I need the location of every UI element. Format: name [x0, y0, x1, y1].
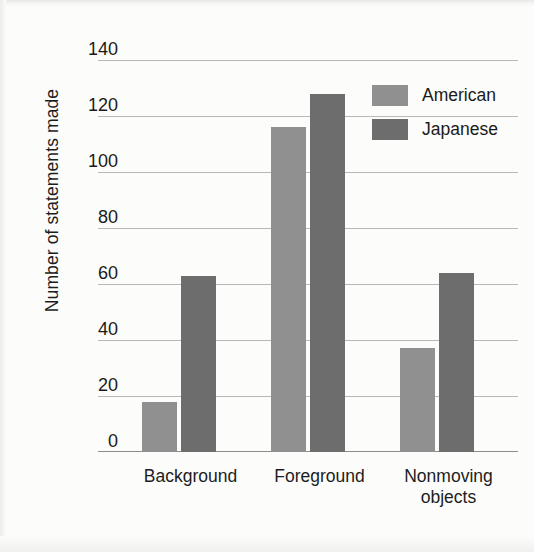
legend-item-american[interactable]: American	[372, 78, 498, 112]
scan-edge-top	[0, 0, 534, 7]
bar-background-american[interactable]	[142, 402, 177, 452]
legend-label-american: American	[422, 85, 496, 106]
x-axis-label-background: Background	[118, 466, 263, 487]
legend-label-japanese: Japanese	[422, 119, 498, 140]
scan-edge-left	[0, 0, 6, 552]
x-axis-label-nonmoving: Nonmoving objects	[376, 466, 521, 507]
bar-foreground-american[interactable]	[271, 127, 306, 452]
legend-swatch-american-icon	[372, 85, 408, 106]
legend: American Japanese	[372, 78, 498, 146]
x-axis-label-nonmoving-line1: Nonmoving	[376, 466, 521, 487]
bar-nonmoving-japanese[interactable]	[439, 273, 474, 452]
gridline-100	[98, 172, 518, 173]
bar-foreground-japanese[interactable]	[310, 94, 345, 452]
gridline-80	[98, 228, 518, 229]
bar-nonmoving-american[interactable]	[400, 348, 435, 452]
chart-page: Number of statements made 140 120 100 80…	[0, 0, 534, 552]
y-axis-title: Number of statements made	[42, 51, 63, 351]
gridline-140	[98, 60, 518, 61]
legend-item-japanese[interactable]: Japanese	[372, 112, 498, 146]
x-axis-label-nonmoving-line2: objects	[376, 487, 521, 508]
x-axis-label-foreground: Foreground	[247, 466, 392, 487]
scan-edge-bottom	[0, 536, 534, 552]
bar-background-japanese[interactable]	[181, 276, 216, 452]
y-tick-label-140: 140	[62, 40, 118, 58]
legend-swatch-japanese-icon	[372, 119, 408, 140]
